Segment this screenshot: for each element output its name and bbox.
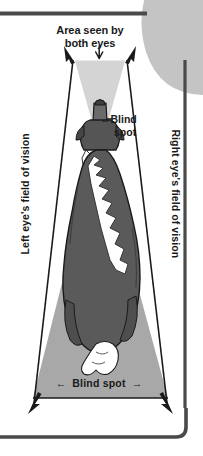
dog-nose: [95, 100, 105, 106]
label-left-eye-field: Left eye's field of vision: [20, 124, 32, 264]
blind-spot-rear-arrow-left: ←: [50, 378, 73, 390]
label-blind-spot-rear-text: Blind spot: [72, 377, 125, 389]
label-binocular-line2: both eyes: [65, 37, 115, 49]
label-blind-spot-head-line2: spot: [100, 126, 160, 139]
blind-spot-rear-arrow-right: →: [126, 378, 149, 390]
label-blind-spot-rear: ←Blind spot→: [24, 378, 174, 390]
label-right-eye-field: Right eye's field of vision: [169, 124, 181, 264]
label-blind-spot-head-arrow: ←: [100, 113, 111, 125]
label-binocular-area: Area seen by both eyes: [0, 24, 180, 50]
label-blind-spot-head-line1: Blind: [111, 113, 137, 125]
label-blind-spot-head: ←Blind spot: [100, 113, 160, 139]
figure-canvas: Area seen by both eyes ←Blind spot ←Blin…: [0, 0, 203, 456]
dog-left-ear: [76, 126, 84, 140]
label-binocular-line1: Area seen by: [56, 24, 123, 36]
frame-bottom-rounded-corner: [0, 408, 186, 437]
